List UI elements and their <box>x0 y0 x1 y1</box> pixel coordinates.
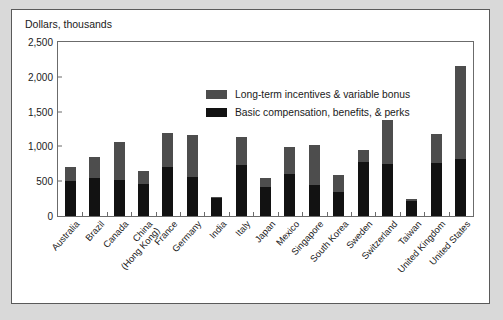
bars-layer <box>58 42 473 216</box>
bar-group <box>358 150 369 216</box>
bar-group <box>114 142 125 216</box>
bar-segment-long-term-incentives <box>138 171 149 184</box>
bar-segment-basic-compensation <box>382 164 393 216</box>
bar-segment-long-term-incentives <box>114 142 125 180</box>
bar-segment-long-term-incentives <box>333 175 344 192</box>
x-axis-label: Italy <box>234 219 253 238</box>
bar-segment-long-term-incentives <box>236 137 247 165</box>
bar-segment-long-term-incentives <box>260 178 271 186</box>
chart-legend: Long-term incentives & variable bonus Ba… <box>206 89 456 125</box>
bar-group <box>309 145 320 216</box>
bar-segment-long-term-incentives <box>455 66 466 160</box>
y-tick-label: 500 <box>36 176 53 187</box>
y-tick-label: 1,500 <box>28 106 53 117</box>
bar-group <box>65 167 76 216</box>
legend-item-basic-compensation: Basic compensation, benefits, & perks <box>206 107 456 118</box>
bar-segment-basic-compensation <box>455 159 466 216</box>
bar-segment-basic-compensation <box>260 187 271 216</box>
bar-segment-basic-compensation <box>309 185 320 216</box>
bar-group <box>162 133 173 216</box>
chart-area: Dollars, thousands 05001,0001,5002,0002,… <box>12 10 489 303</box>
bar-segment-long-term-incentives <box>65 167 76 182</box>
y-tick-label: 0 <box>47 211 53 222</box>
bar-segment-long-term-incentives <box>284 147 295 174</box>
bar-segment-long-term-incentives <box>382 120 393 164</box>
bar-group <box>333 175 344 216</box>
bar-group <box>187 135 198 216</box>
y-tick-label: 2,500 <box>28 37 53 48</box>
bar-segment-basic-compensation <box>406 201 417 216</box>
bar-group <box>406 199 417 216</box>
bar-group <box>89 157 100 216</box>
legend-label-basic: Basic compensation, benefits, & perks <box>235 107 410 118</box>
bar-group <box>382 120 393 216</box>
bar-group <box>138 171 149 216</box>
bar-segment-long-term-incentives <box>162 133 173 167</box>
plot-area: 05001,0001,5002,0002,500 Long-term incen… <box>57 41 474 217</box>
bar-group <box>211 197 222 216</box>
bar-segment-long-term-incentives <box>431 134 442 163</box>
bar-segment-basic-compensation <box>138 184 149 216</box>
bar-segment-basic-compensation <box>89 178 100 216</box>
bar-segment-basic-compensation <box>65 181 76 216</box>
bar-segment-basic-compensation <box>187 177 198 216</box>
bar-segment-long-term-incentives <box>309 145 320 185</box>
bar-segment-basic-compensation <box>162 167 173 216</box>
bar-group <box>236 137 247 216</box>
bar-group <box>455 66 466 216</box>
y-tick-label: 2,000 <box>28 71 53 82</box>
bar-segment-basic-compensation <box>211 198 222 216</box>
bar-segment-long-term-incentives <box>358 150 369 162</box>
x-axis-label: Australia <box>50 219 82 253</box>
bar-group <box>284 147 295 216</box>
bar-segment-long-term-incentives <box>187 135 198 177</box>
y-tick-label: 1,000 <box>28 141 53 152</box>
x-axis-labels: AustraliaBrazilCanadaChina(Hong Kong)Fra… <box>57 219 474 305</box>
y-axis-title: Dollars, thousands <box>25 18 112 30</box>
legend-label-long-term: Long-term incentives & variable bonus <box>235 89 410 100</box>
chart-figure-frame: Dollars, thousands 05001,0001,5002,0002,… <box>11 9 490 304</box>
bar-group <box>431 134 442 216</box>
legend-swatch-icon-basic <box>206 108 227 117</box>
bar-segment-long-term-incentives <box>89 157 100 178</box>
x-axis-label: Brazil <box>83 219 106 243</box>
legend-swatch-icon-long-term <box>206 90 227 99</box>
bar-segment-basic-compensation <box>431 163 442 216</box>
legend-item-long-term-incentives: Long-term incentives & variable bonus <box>206 89 456 100</box>
bar-segment-basic-compensation <box>236 165 247 216</box>
bar-segment-basic-compensation <box>284 174 295 216</box>
x-tick-mark <box>473 212 474 216</box>
bar-segment-basic-compensation <box>333 192 344 216</box>
bar-segment-basic-compensation <box>114 180 125 216</box>
x-axis-label: India <box>207 219 228 241</box>
bar-group <box>260 178 271 216</box>
bar-segment-basic-compensation <box>358 162 369 216</box>
